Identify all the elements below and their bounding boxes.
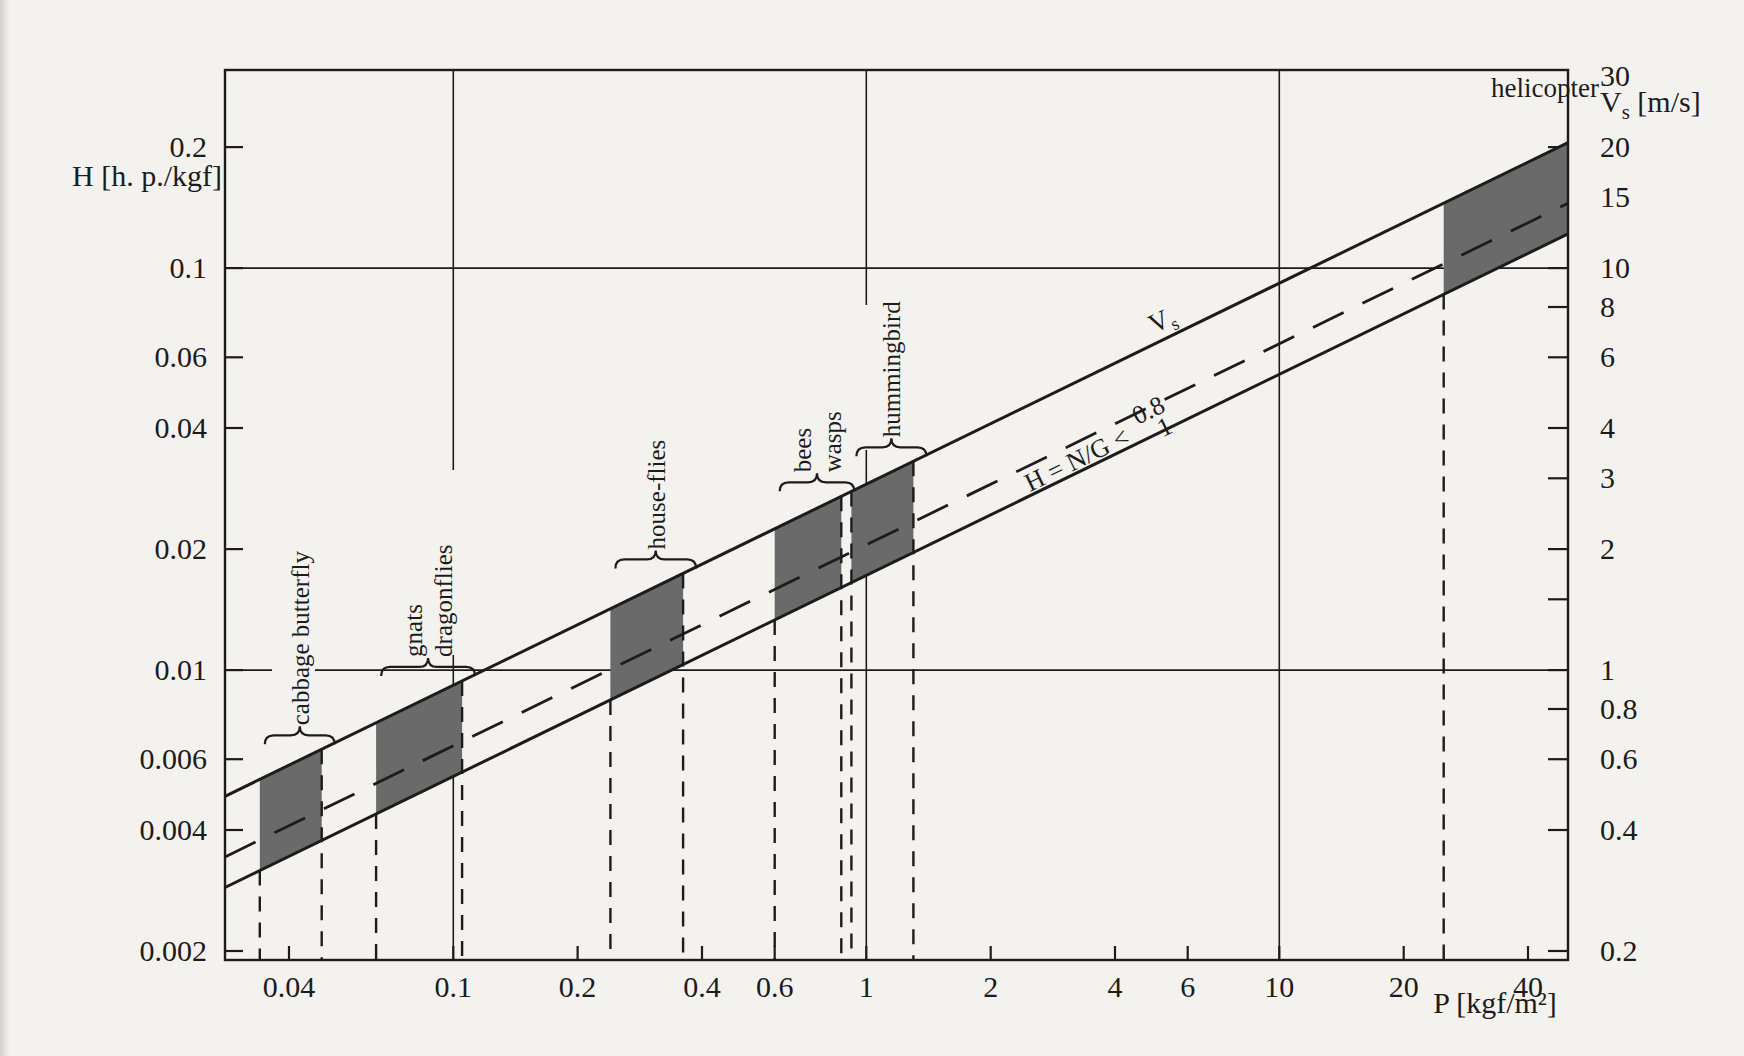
- y2-tick-label: 20: [1600, 130, 1630, 163]
- axis-title-part: V: [1600, 85, 1622, 118]
- segment-cabbage-butterfly: [260, 749, 322, 870]
- segment-hummingbird: [851, 461, 913, 582]
- x-axis-title: P [kgf/m²]: [1433, 986, 1557, 1019]
- y-tick-label: 0.006: [140, 742, 208, 775]
- brace-cabbage-butterfly: [265, 726, 335, 744]
- y-tick-label: 0.1: [170, 251, 208, 284]
- segment-bees-wasps: [775, 496, 842, 620]
- label-bees-wasps-0: bees: [789, 428, 816, 472]
- y2-tick-label: 6: [1600, 340, 1615, 373]
- y-tick-label: 0.02: [155, 532, 208, 565]
- y-tick-label: 0.04: [155, 411, 208, 444]
- axis-title-part: [m/s]: [1630, 85, 1701, 118]
- x-tick-label: 10: [1264, 970, 1294, 1003]
- y2-tick-label: 3: [1600, 461, 1615, 494]
- y2-tick-label: 15: [1600, 180, 1630, 213]
- y2-tick-label: 0.4: [1600, 813, 1638, 846]
- x-tick-label: 0.1: [435, 970, 473, 1003]
- label-gnats-dragonflies-1: dragonflies: [430, 544, 457, 656]
- brace-house-flies: [615, 550, 696, 568]
- y2-tick-label: 4: [1600, 411, 1615, 444]
- y2-tick-label: 0.8: [1600, 692, 1638, 725]
- label-gnats-dragonflies-0: gnats: [400, 604, 427, 657]
- y2-tick-label: 1: [1600, 653, 1615, 686]
- band-annotation: H = N/G <0.81: [1014, 390, 1179, 505]
- brace-bees-wasps: [780, 473, 855, 491]
- y-tick-label: 0.06: [155, 340, 208, 373]
- x-tick-label: 0.04: [263, 970, 316, 1003]
- x-tick-label: 20: [1389, 970, 1419, 1003]
- y-tick-label: 0.002: [140, 934, 208, 967]
- y2-tick-label: 10: [1600, 251, 1630, 284]
- y-tick-label: 0.01: [155, 653, 208, 686]
- label-bees-wasps-1: wasps: [819, 411, 846, 472]
- y2-tick-label: 8: [1600, 290, 1615, 323]
- vs-line-label: Vs: [1144, 301, 1183, 343]
- x-tick-label: 0.2: [559, 970, 597, 1003]
- axis-title-part: s: [1622, 100, 1630, 124]
- y2-tick-label: 0.2: [1600, 934, 1638, 967]
- label-house-flies-0: house-flies: [643, 440, 670, 550]
- segment-helicopter: [1444, 143, 1568, 295]
- x-tick-label: 1: [859, 970, 874, 1003]
- label-cabbage-butterfly-0: cabbage butterfly: [287, 551, 314, 726]
- y-tick-label: 0.004: [140, 813, 208, 846]
- x-tick-label: 4: [1108, 970, 1123, 1003]
- annotation-formula: H = N/G <: [1020, 422, 1134, 497]
- vs-line-label-text: Vs: [1144, 301, 1183, 343]
- y2-tick-label: 2: [1600, 532, 1615, 565]
- y2-tick-label: 0.6: [1600, 742, 1638, 775]
- scanned-chart-page: 0.040.10.20.40.612461020400.20.10.060.04…: [0, 0, 1744, 1056]
- x-tick-label: 6: [1180, 970, 1195, 1003]
- label-helicopter: helicopter: [1491, 73, 1599, 103]
- y2-axis-title: Vs [m/s]: [1600, 85, 1701, 124]
- band-upper-line: [225, 143, 1568, 797]
- x-tick-label: 2: [983, 970, 998, 1003]
- brace-gnats-dragonflies: [381, 658, 475, 676]
- x-tick-label: 0.4: [683, 970, 721, 1003]
- y-axis-title: H [h. p./kgf]: [72, 159, 222, 192]
- hovering-flight-chart: 0.040.10.20.40.612461020400.20.10.060.04…: [0, 0, 1744, 1056]
- label-hummingbird-0: hummingbird: [878, 301, 905, 438]
- x-tick-label: 0.6: [756, 970, 794, 1003]
